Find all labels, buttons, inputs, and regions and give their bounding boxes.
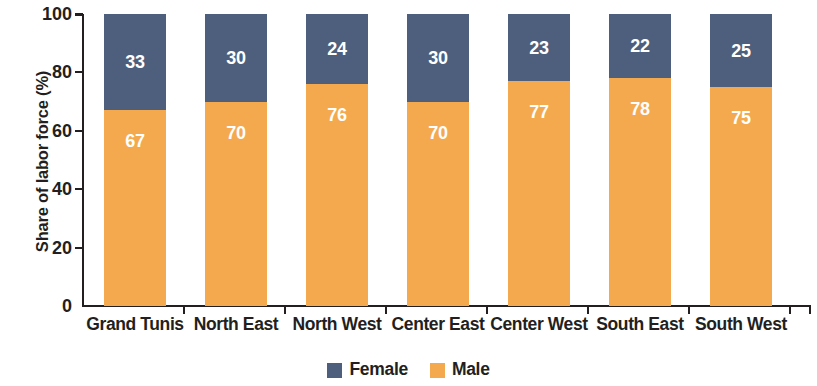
plot-area: 3367307024763070237722782575 <box>0 14 817 306</box>
bar-value-label: 23 <box>529 39 548 57</box>
bar-value-label: 25 <box>731 42 750 60</box>
bar-group: 2377 <box>508 14 570 306</box>
bar-value-label: 77 <box>508 103 570 121</box>
bar-group: 2476 <box>306 14 368 306</box>
bar-segment-male: 76 <box>306 84 368 306</box>
bar-group: 3070 <box>407 14 469 306</box>
x-axis-category-label: South West <box>666 314 816 335</box>
bar-segment-male: 75 <box>710 87 772 306</box>
bar-value-label: 30 <box>428 49 447 67</box>
bar-segment-female: 30 <box>205 14 267 102</box>
x-axis-tick-mark <box>486 305 488 314</box>
bar-group: 3367 <box>104 14 166 306</box>
bar-group: 2278 <box>609 14 671 306</box>
bar-value-label: 33 <box>125 53 144 71</box>
bar-value-label: 75 <box>710 109 772 127</box>
stacked-bar-chart: Share of labor force (%) 020406080100 33… <box>0 0 817 386</box>
chart-legend: FemaleMale <box>0 358 817 382</box>
legend-item[interactable]: Male <box>430 361 490 379</box>
x-axis-tick-mark <box>183 305 185 314</box>
legend-swatch-female <box>327 363 342 378</box>
bar-value-label: 30 <box>226 49 245 67</box>
bar-segment-female: 23 <box>508 14 570 81</box>
legend-item[interactable]: Female <box>327 361 408 379</box>
bar-segment-male: 67 <box>104 110 166 306</box>
bar-segment-male: 70 <box>205 102 267 306</box>
legend-label: Male <box>452 361 490 379</box>
x-axis-category-labels: Grand TunisNorth EastNorth WestCenter Ea… <box>0 314 817 342</box>
bar-segment-female: 24 <box>306 14 368 84</box>
bar-value-label: 24 <box>327 40 346 58</box>
bar-value-label: 67 <box>104 132 166 150</box>
bar-value-label: 70 <box>407 124 469 142</box>
x-axis-tick-mark <box>587 305 589 314</box>
bar-segment-male: 77 <box>508 81 570 306</box>
bar-group: 3070 <box>205 14 267 306</box>
x-axis-tick-mark <box>789 305 791 314</box>
legend-swatch-male <box>430 363 445 378</box>
bar-value-label: 22 <box>630 37 649 55</box>
x-axis-tick-mark <box>284 305 286 314</box>
bar-segment-male: 78 <box>609 78 671 306</box>
bar-value-label: 70 <box>205 124 267 142</box>
bar-segment-female: 33 <box>104 14 166 110</box>
x-axis-tick-mark <box>688 305 690 314</box>
bar-segment-female: 25 <box>710 14 772 87</box>
x-axis-right-tick <box>809 305 811 314</box>
bar-value-label: 76 <box>306 106 368 124</box>
bar-segment-male: 70 <box>407 102 469 306</box>
bar-value-label: 78 <box>609 100 671 118</box>
bar-group: 2575 <box>710 14 772 306</box>
bar-segment-female: 30 <box>407 14 469 102</box>
bar-segment-female: 22 <box>609 14 671 78</box>
x-axis-tick-mark <box>385 305 387 314</box>
legend-label: Female <box>349 361 408 379</box>
